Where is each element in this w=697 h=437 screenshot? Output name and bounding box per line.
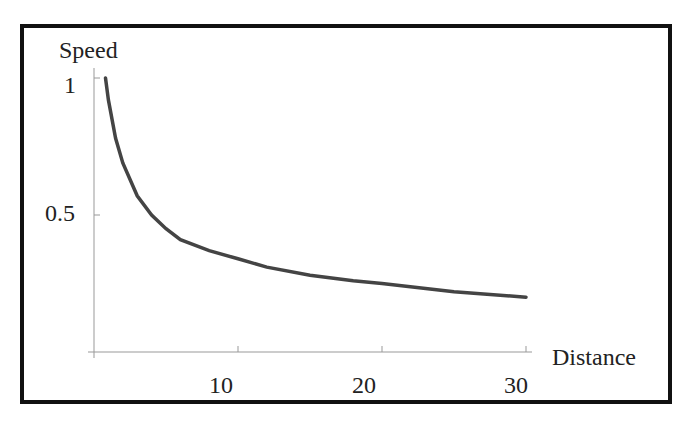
axis-ticks [94,78,526,352]
x-tick-label-30: 30 [504,372,528,399]
chart-plot [0,0,697,437]
speed-curve [106,78,527,297]
x-tick-label-10: 10 [209,372,233,399]
y-tick-label-1: 1 [64,72,76,99]
y-axis-label: Speed [59,37,118,64]
y-tick-label-0.5: 0.5 [45,200,75,227]
x-tick-label-20: 20 [352,372,376,399]
x-axis-label: Distance [552,344,636,371]
